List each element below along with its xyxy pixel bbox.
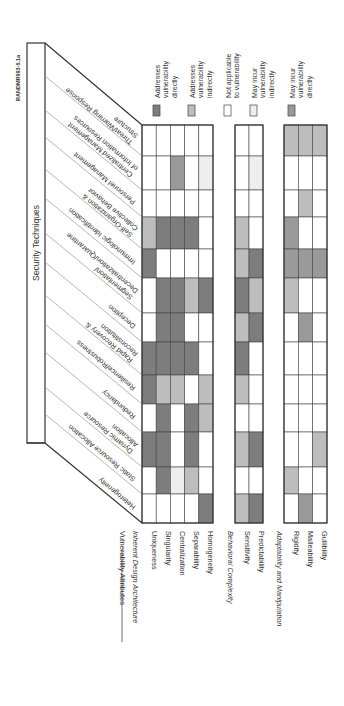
security-techniques-matrix: Security TechniquesThreat/Warning Respon…	[0, 0, 344, 706]
matrix-cell	[249, 342, 263, 375]
legend-item: Not applicableto vulnerability	[224, 53, 241, 116]
matrix-cell	[185, 375, 199, 404]
matrix-cell	[170, 156, 184, 190]
matrix-cell	[170, 375, 184, 404]
matrix-cell	[199, 125, 213, 156]
matrix-cell	[284, 313, 298, 342]
attributes-header: Vulnerability Attributes	[118, 531, 127, 605]
matrix-cell	[313, 125, 327, 156]
matrix-cell	[185, 217, 199, 249]
header-title: Security Techniques	[31, 205, 41, 281]
matrix-cell	[156, 342, 170, 375]
matrix-cell	[298, 494, 312, 523]
technique-labels: Threat/Warning ResponseStructureCentrali…	[45, 76, 142, 512]
matrix-cell	[313, 313, 327, 342]
attribute-name: Homogeneity	[206, 531, 215, 574]
matrix-cell	[284, 432, 298, 467]
matrix-cell	[142, 190, 156, 217]
matrix-cell	[185, 249, 199, 278]
matrix-cell	[185, 467, 199, 494]
legend-swatch	[288, 105, 295, 116]
technique-label: Deception	[106, 303, 137, 331]
matrix-cell	[298, 156, 312, 190]
matrix-cell	[156, 249, 170, 278]
matrix-cell	[284, 467, 298, 494]
matrix-cell	[185, 278, 199, 313]
attribute-name: Sensitivity	[243, 531, 252, 564]
attribute-name: Centralization	[178, 531, 187, 576]
legend-label: indirectly	[268, 70, 276, 98]
matrix-cell	[156, 375, 170, 404]
matrix-cell	[235, 432, 249, 467]
matrix-cell	[313, 432, 327, 467]
matrix-cell	[199, 467, 213, 494]
matrix-cell	[142, 494, 156, 523]
matrix-cell	[170, 249, 184, 278]
matrix-cell	[284, 278, 298, 313]
legend-label: vulnerability	[162, 61, 170, 98]
matrix-cell	[185, 313, 199, 342]
matrix-cell	[170, 278, 184, 313]
matrix-cell	[142, 125, 156, 156]
matrix-cell	[313, 404, 327, 432]
matrix-cell	[235, 375, 249, 404]
matrix-cell	[298, 342, 312, 375]
legend-label: May incur	[289, 67, 297, 98]
matrix-cell	[156, 156, 170, 190]
technique-name: Deception	[106, 303, 137, 331]
matrix-cell	[284, 375, 298, 404]
matrix-cell	[185, 494, 199, 523]
matrix-cell	[235, 156, 249, 190]
matrix-cell	[199, 342, 213, 375]
matrix-cell	[199, 217, 213, 249]
matrix-cell	[235, 190, 249, 217]
matrix-cell	[313, 190, 327, 217]
matrix-cell	[142, 217, 156, 249]
matrix-cell	[142, 156, 156, 190]
legend-swatch	[250, 105, 257, 116]
legend-item: Addressesvulnerabilityindirectly	[188, 61, 214, 116]
matrix-cell	[170, 313, 184, 342]
matrix-cell	[170, 342, 184, 375]
matrix-cell	[313, 494, 327, 523]
matrix-cell	[284, 494, 298, 523]
matrix-cell	[235, 125, 249, 156]
attribute-name: Separability	[192, 531, 201, 569]
matrix-cell	[185, 432, 199, 467]
attribute-name: Rigidity	[292, 531, 301, 555]
matrix-cell	[170, 217, 184, 249]
matrix-cell	[156, 313, 170, 342]
legend-label: Addresses	[189, 64, 196, 98]
matrix-cell	[199, 190, 213, 217]
legend-label: indirectly	[206, 70, 214, 98]
matrix-cell	[249, 375, 263, 404]
matrix-cell	[249, 467, 263, 494]
matrix-cell	[199, 249, 213, 278]
matrix-cell	[142, 342, 156, 375]
matrix-cell	[142, 432, 156, 467]
attribute-name: Gullibility	[320, 531, 329, 561]
matrix-cell	[249, 494, 263, 523]
attribute-name: Uniqueness	[150, 531, 159, 570]
matrix-cell	[156, 217, 170, 249]
matrix-cell	[156, 467, 170, 494]
legend-swatch	[153, 105, 160, 116]
matrix-cell	[235, 342, 249, 375]
matrix-cell	[142, 467, 156, 494]
matrix-grid	[142, 125, 327, 523]
matrix-cell	[199, 313, 213, 342]
matrix-cell	[313, 342, 327, 375]
matrix-cell	[170, 494, 184, 523]
legend-label: vulnerability	[297, 61, 305, 98]
matrix-cell	[142, 313, 156, 342]
matrix-cell	[156, 494, 170, 523]
matrix-cell	[249, 156, 263, 190]
matrix-cell	[235, 313, 249, 342]
matrix-cell	[185, 342, 199, 375]
attribute-group-name: Behavioral Complexity	[226, 531, 235, 605]
matrix-cell	[298, 217, 312, 249]
legend-label: vulnerability	[259, 61, 267, 98]
matrix-cell	[284, 156, 298, 190]
matrix-cell	[185, 156, 199, 190]
matrix-cell	[298, 249, 312, 278]
